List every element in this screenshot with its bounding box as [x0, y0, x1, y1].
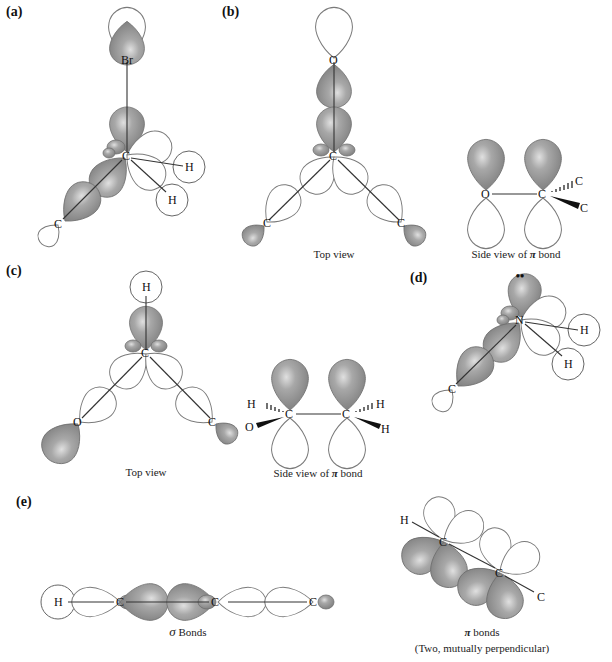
- atom-o: O: [329, 53, 338, 67]
- atom-c: C: [122, 149, 130, 163]
- hashed-wedge: [356, 403, 372, 412]
- back-lobe: [151, 340, 167, 352]
- panel-e-label: (e): [16, 494, 32, 510]
- atom-c: C: [495, 566, 503, 580]
- atom-c: C: [538, 187, 546, 201]
- solid-wedge: [354, 417, 381, 429]
- atom-c: C: [309, 595, 317, 609]
- atom-o: O: [481, 187, 490, 201]
- atom-h: H: [142, 280, 151, 294]
- atom-c: C: [116, 595, 124, 609]
- panel-d-label: (d): [410, 270, 427, 286]
- atom-o: O: [245, 420, 254, 434]
- c-back-lobe: [318, 595, 334, 609]
- atom-h: H: [376, 397, 385, 411]
- atom-h: H: [381, 422, 390, 436]
- c-p-lobe-up: [272, 359, 309, 410]
- atom-c: C: [537, 590, 545, 604]
- atom-c: C: [285, 407, 293, 421]
- atom-h: H: [185, 160, 194, 174]
- lone-pair-dots: ••: [516, 269, 524, 283]
- panel-d: (d) •• N H H C: [410, 269, 600, 416]
- atom-h: H: [580, 323, 589, 337]
- atom-c: C: [141, 346, 149, 360]
- hashed-wedge: [267, 403, 283, 412]
- c-p-lobe-up: [329, 359, 366, 410]
- top-view-caption: Top view: [313, 248, 354, 260]
- o-open-lobe: [316, 7, 353, 58]
- panel-a-label: (a): [6, 4, 23, 20]
- o-p-lobe-up: [468, 139, 505, 190]
- panel-b: (b) O C C C Top view: [222, 4, 588, 260]
- panel-c-label: (c): [6, 263, 22, 279]
- atom-c: C: [575, 174, 583, 188]
- back-lobe: [125, 340, 141, 352]
- top-view-caption: Top view: [125, 466, 166, 478]
- orbital-diagram: (a) Br C H H C (b): [0, 0, 612, 662]
- back-lobe: [339, 144, 355, 156]
- atom-h: H: [247, 397, 256, 411]
- atom-c: C: [342, 407, 350, 421]
- atom-c: C: [208, 415, 216, 429]
- atom-c: C: [580, 201, 588, 215]
- atom-h: H: [400, 513, 409, 527]
- back-lobe: [103, 148, 115, 158]
- atom-c: C: [263, 216, 271, 230]
- c-p-lobe-down: [329, 418, 366, 469]
- atom-c: C: [448, 382, 456, 396]
- atom-h: H: [168, 193, 177, 207]
- atom-c: C: [211, 595, 219, 609]
- atom-c: C: [54, 217, 62, 231]
- panel-b-label: (b): [222, 4, 239, 20]
- atom-c: C: [397, 216, 405, 230]
- atom-h: H: [564, 357, 573, 371]
- atom-n: N: [515, 313, 524, 327]
- atom-c: C: [439, 535, 447, 549]
- atom-h: H: [54, 595, 63, 609]
- solid-wedge: [550, 196, 580, 209]
- hashed-wedge: [552, 181, 572, 192]
- atom-c: C: [329, 149, 337, 163]
- pi-caption: π bonds: [464, 626, 499, 638]
- side-view-caption: Side view of π bond: [273, 467, 363, 479]
- sigma-bonds-diagram: H C C C σ Bonds: [41, 584, 334, 639]
- panel-c: (c) H C O C Top view: [6, 263, 390, 479]
- c-p-lobe-down: [272, 418, 309, 469]
- panel-e: (e) H C C C σ Bonds: [16, 494, 550, 655]
- side-view-caption: Side view of π bond: [471, 248, 561, 260]
- solid-wedge: [256, 417, 284, 428]
- o-p-lobe-down: [468, 198, 505, 249]
- c-open-lobe: [360, 178, 413, 233]
- c-p-lobe-down: [525, 198, 562, 249]
- pi-bonds-diagram: H C C C π bonds (Two, mutually perpendic…: [395, 494, 550, 655]
- back-lobe: [313, 144, 329, 156]
- panel-a: (a) Br C H H C: [6, 4, 205, 251]
- atom-br: Br: [121, 53, 133, 67]
- sigma-caption: σ Bonds: [169, 624, 206, 639]
- atom-o: O: [73, 415, 82, 429]
- pi-caption-line2: (Two, mutually perpendicular): [415, 642, 550, 655]
- c-p-lobe-up: [525, 139, 562, 190]
